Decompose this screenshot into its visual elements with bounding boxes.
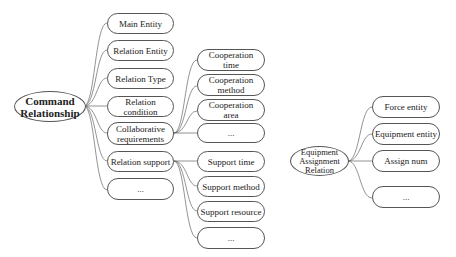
node-assign-num[interactable]: Assign num — [372, 150, 440, 172]
node-cooperation-time[interactable]: Cooperation time — [197, 49, 265, 71]
node-support-more[interactable]: ... — [197, 227, 265, 249]
node-relation-type[interactable]: Relation Type — [107, 68, 174, 89]
node-main-entity[interactable]: Main Entity — [107, 13, 174, 34]
node-cooperation-area[interactable]: Cooperation area — [197, 99, 265, 121]
node-collaborative-requirements[interactable]: Collaborative requirements — [107, 122, 174, 145]
node-equipment-more[interactable]: ... — [372, 186, 440, 208]
node-support-resource[interactable]: Support resource — [197, 201, 265, 222]
node-cooperation-more[interactable]: ... — [197, 123, 265, 143]
node-relation-entity[interactable]: Relation Entity — [107, 40, 174, 61]
root-label: Equipment Assignment Relation — [299, 148, 340, 175]
command-relationship-root[interactable]: Command Relationship — [14, 91, 86, 122]
root-label: Command Relationship — [20, 95, 79, 119]
node-cooperation-method[interactable]: Cooperation method — [197, 74, 265, 96]
node-support-method[interactable]: Support method — [197, 176, 265, 197]
node-command-more[interactable]: ... — [107, 178, 174, 200]
node-support-time[interactable]: Support time — [197, 151, 265, 172]
node-relation-condition[interactable]: Relation condition — [107, 96, 174, 117]
equipment-assignment-root[interactable]: Equipment Assignment Relation — [290, 146, 349, 176]
node-equipment-entity[interactable]: Equipment entity — [372, 123, 440, 145]
node-relation-support[interactable]: Relation support — [107, 151, 174, 172]
node-force-entity[interactable]: Force entity — [372, 96, 440, 118]
